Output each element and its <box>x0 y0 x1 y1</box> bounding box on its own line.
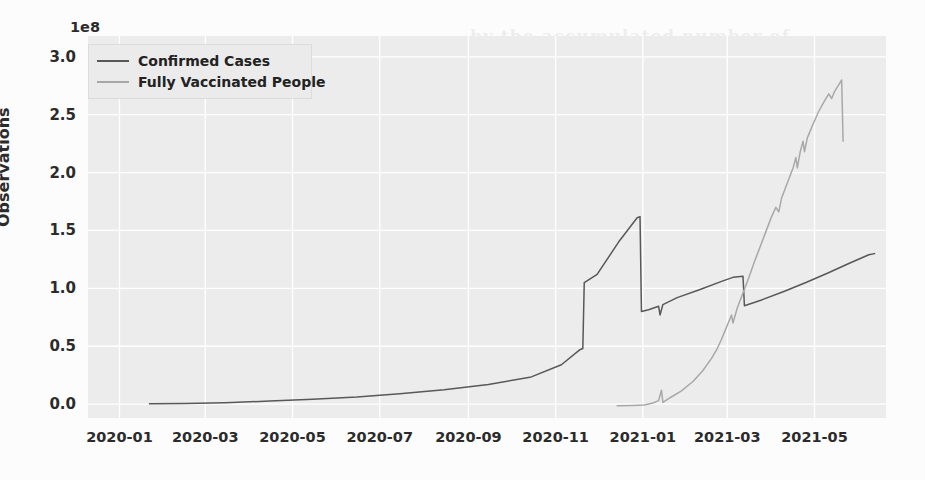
legend-label: Confirmed Cases <box>138 53 270 69</box>
series-line-2 <box>617 80 843 406</box>
y-tick-label: 1.5 <box>30 221 76 239</box>
legend-item: Confirmed Cases <box>97 50 303 71</box>
x-tick-label: 2020-01 <box>86 429 153 445</box>
x-tick-label: 2021-05 <box>781 429 848 445</box>
x-tick-label: 2020-09 <box>435 429 502 445</box>
y-tick-label: 2.5 <box>30 106 76 124</box>
data-series-lines <box>149 80 874 406</box>
y-tick-label: 1.0 <box>30 279 76 297</box>
legend-item: Fully Vaccinated People <box>97 71 303 92</box>
x-tick-label: 2020-11 <box>522 429 589 445</box>
legend-label: Fully Vaccinated People <box>138 74 326 90</box>
y-axis-offset-text: 1e8 <box>70 19 100 35</box>
legend-line-swatch <box>97 81 129 83</box>
chart-figure: by the accumulated number ofwhich any kn… <box>0 0 925 480</box>
x-tick-label: 2021-01 <box>610 429 677 445</box>
y-tick-label: 0.0 <box>30 395 76 413</box>
y-tick-label: 2.0 <box>30 164 76 182</box>
x-tick-label: 2020-07 <box>346 429 413 445</box>
y-axis-label: Observations <box>0 107 13 227</box>
y-tick-label: 3.0 <box>30 48 76 66</box>
chart-legend: Confirmed CasesFully Vaccinated People <box>88 44 312 99</box>
y-tick-label: 0.5 <box>30 337 76 355</box>
x-tick-label: 2020-05 <box>259 429 326 445</box>
x-tick-label: 2020-03 <box>172 429 239 445</box>
legend-line-swatch <box>97 60 129 62</box>
series-line-1 <box>149 217 874 404</box>
x-tick-label: 2021-03 <box>694 429 761 445</box>
